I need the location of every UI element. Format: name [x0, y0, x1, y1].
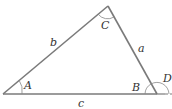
- label-angle-D: D: [162, 72, 172, 85]
- label-side-c: c: [78, 97, 84, 109]
- angle-arc-B: [145, 84, 151, 94]
- label-angle-C: C: [101, 19, 110, 32]
- label-side-b: b: [50, 36, 57, 49]
- side-b: [3, 6, 108, 94]
- angle-arc-A: [19, 80, 22, 94]
- label-angle-B: B: [131, 81, 140, 94]
- label-angle-A: A: [23, 79, 32, 92]
- triangle-diagram: b a c A B C D: [0, 0, 172, 109]
- label-side-a: a: [138, 42, 145, 55]
